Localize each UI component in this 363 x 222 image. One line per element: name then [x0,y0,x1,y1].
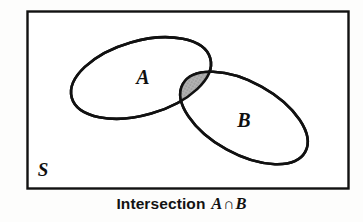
figure-caption: Intersection A∩B [0,194,363,214]
caption-left-set: A [211,194,222,213]
caption-word: Intersection [116,195,205,212]
set-b-label: B [236,109,250,131]
universe-label: S [38,159,49,180]
set-a-label: A [134,66,149,88]
intersection-operator-icon: ∩ [222,195,235,212]
venn-diagram-figure: A B S Intersection A∩B [0,0,363,222]
venn-diagram-canvas: A B S [0,0,363,194]
caption-right-set: B [236,194,247,213]
